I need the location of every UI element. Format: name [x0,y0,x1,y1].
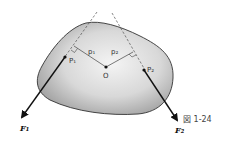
label-dist-p2: p₂ [111,48,118,56]
figure-caption: 図 1-24 [183,113,212,124]
label-p1: P₁ [69,57,76,65]
label-o: O [103,72,109,80]
point-o-dot [104,65,107,68]
label-dist-p1: p₁ [88,48,95,56]
point-p2-dot [142,68,145,71]
point-p1-dot [63,55,66,58]
label-force-f1: F₁ [19,123,29,133]
label-p2: P₂ [147,66,154,74]
label-force-f2: F₂ [174,125,185,135]
